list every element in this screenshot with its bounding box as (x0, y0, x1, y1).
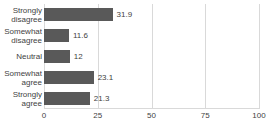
bar (44, 50, 70, 63)
category-label: Somewhatdisagree (0, 25, 42, 46)
category-label-line: Neutral (16, 52, 42, 61)
bar-value-label: 11.6 (73, 32, 88, 40)
category-axis-labels: StronglydisagreeSomewhatdisagreeNeutralS… (0, 4, 42, 109)
bar (44, 92, 90, 105)
bar (44, 71, 94, 84)
x-tick-label: 50 (147, 112, 156, 120)
bar-row: 31.9 (44, 4, 259, 25)
x-tick-label: 25 (93, 112, 102, 120)
category-label-line: agree (22, 99, 42, 108)
bar-chart: StronglydisagreeSomewhatdisagreeNeutralS… (0, 0, 278, 135)
category-axis-line (44, 108, 259, 109)
bar-value-label: 23.1 (98, 74, 114, 82)
bar-row: 21.3 (44, 88, 259, 109)
x-tick-label: 0 (42, 112, 46, 120)
x-tick-label: 75 (201, 112, 210, 120)
bar-value-label: 12 (74, 53, 83, 61)
category-label-line: Somewhat (4, 27, 42, 36)
bar (44, 8, 113, 21)
value-axis-tick-labels: 0255075100 (44, 112, 259, 126)
category-label-line: Strongly (13, 6, 42, 15)
category-label-line: Strongly (13, 90, 42, 99)
category-label-line: agree (22, 78, 42, 87)
category-label: Somewhatagree (0, 67, 42, 88)
bar (44, 29, 69, 42)
x-tick-label: 100 (252, 112, 265, 120)
bar-row: 11.6 (44, 25, 259, 46)
category-label-line: disagree (11, 15, 42, 24)
bar-value-label: 31.9 (117, 11, 133, 19)
category-label: Neutral (0, 46, 42, 67)
plot-area: 31.911.61223.121.3 (44, 4, 259, 109)
category-label-line: Somewhat (4, 69, 42, 78)
bar-row: 12 (44, 46, 259, 67)
bar-row: 23.1 (44, 67, 259, 88)
bar-value-label: 21.3 (94, 95, 110, 103)
category-label: Stronglyagree (0, 88, 42, 109)
category-label-line: disagree (11, 36, 42, 45)
category-label: Stronglydisagree (0, 4, 42, 25)
gridline-100 (259, 4, 260, 109)
